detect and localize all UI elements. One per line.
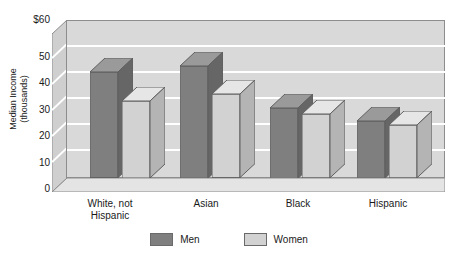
y-tick-30: 30 bbox=[16, 105, 50, 115]
legend-item-women: Women bbox=[244, 233, 308, 246]
bar-women-white bbox=[122, 87, 165, 178]
x-tick-asian: Asian bbox=[158, 198, 254, 210]
bar-women-asian bbox=[212, 80, 255, 178]
x-tick-black: Black bbox=[250, 198, 346, 210]
y-tick-0: 0 bbox=[16, 184, 50, 194]
y-tick-10: 10 bbox=[16, 158, 50, 168]
legend-label-men: Men bbox=[180, 234, 199, 245]
y-tick-50: 50 bbox=[16, 52, 50, 62]
left-side-wall bbox=[52, 20, 67, 192]
y-tick-40: 40 bbox=[16, 78, 50, 88]
legend-item-men: Men bbox=[150, 233, 199, 246]
bar-women-hispanic bbox=[389, 111, 432, 178]
bar-women-black bbox=[302, 100, 345, 178]
chart-legend: Men Women bbox=[0, 233, 458, 246]
y-tick-60: $60 bbox=[16, 15, 50, 25]
x-tick-white-not-hispanic: White, not Hispanic bbox=[62, 198, 158, 222]
bar-3d-shape bbox=[122, 87, 165, 178]
bar-chart: Median Income (thousands) $60 50 40 30 2… bbox=[0, 0, 458, 260]
legend-label-women: Women bbox=[274, 234, 308, 245]
y-tick-20: 20 bbox=[16, 131, 50, 141]
legend-swatch-women bbox=[244, 233, 267, 246]
plot-area bbox=[52, 20, 445, 192]
gridline-50 bbox=[67, 45, 445, 47]
y-axis-tick-labels: $60 50 40 30 20 10 0 bbox=[8, 0, 50, 260]
bar-3d-shape bbox=[389, 111, 432, 178]
legend-swatch-men bbox=[150, 233, 173, 246]
bar-3d-shape bbox=[212, 80, 255, 178]
x-tick-hispanic: Hispanic bbox=[340, 198, 436, 210]
bar-3d-shape bbox=[302, 100, 345, 178]
